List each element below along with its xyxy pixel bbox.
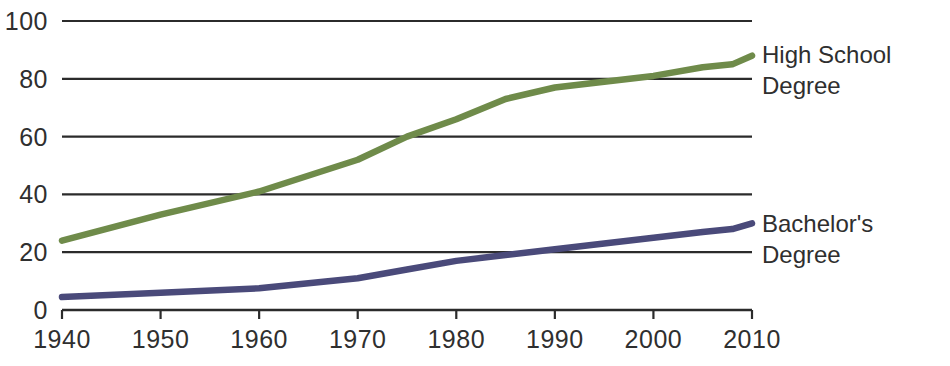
x-tick-label: 1970	[329, 327, 387, 352]
y-tick-label: 60	[0, 124, 48, 149]
x-tick-label: 2010	[723, 327, 781, 352]
x-tick-label: 1950	[132, 327, 190, 352]
y-tick-label: 80	[0, 66, 48, 91]
y-tick-label: 100	[0, 9, 48, 34]
line-chart: 020406080100 194019501960197019801990200…	[0, 0, 950, 366]
series-label-high-school: High School Degree	[762, 40, 891, 101]
x-tick-label: 1960	[230, 327, 288, 352]
y-tick-label: 0	[0, 298, 48, 323]
series-lines-group	[62, 56, 752, 297]
x-tick-label: 1990	[526, 327, 584, 352]
x-tick-label: 1980	[427, 327, 485, 352]
x-tick-label: 1940	[33, 327, 91, 352]
y-tick-label: 20	[0, 240, 48, 265]
series-line-high-school	[62, 56, 752, 241]
series-line-bachelors	[62, 223, 752, 297]
series-label-bachelors: Bachelor's Degree	[762, 209, 950, 270]
y-tick-label: 40	[0, 182, 48, 207]
x-tick-label: 2000	[625, 327, 683, 352]
x-tick-marks-group	[62, 310, 752, 319]
